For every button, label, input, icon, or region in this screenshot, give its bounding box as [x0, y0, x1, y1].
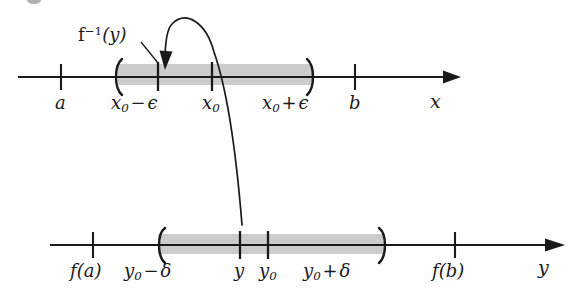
- bottom-axis-arrowhead: [545, 239, 565, 252]
- top-tick-label-x0-plus-eps: x0+ϵ: [262, 94, 309, 112]
- top-axis-arrowhead: [443, 71, 461, 84]
- top-axis-label-x: x: [430, 92, 441, 111]
- top-tick-label-x0-minus-eps: x0−ϵ: [111, 94, 158, 112]
- mapping-curve: [165, 18, 242, 225]
- top-tick-label-b: b: [349, 94, 361, 112]
- bottom-axis-label-y: y: [538, 258, 549, 277]
- top-axis-shaded-band: [118, 64, 312, 85]
- inverse-function-epsilon-delta-figure: f−1(y) a x0−ϵ x0 x0+ϵ b x f(a) y0−δ y y0…: [0, 0, 584, 307]
- callout-leader-line: [141, 42, 158, 63]
- top-tick-label-x0: x0: [202, 94, 220, 112]
- bottom-tick-label-f-of-a: f(a): [70, 262, 101, 280]
- top-tick-label-a: a: [55, 94, 66, 112]
- bottom-tick-label-f-of-b: f(b): [432, 262, 464, 280]
- bottom-tick-label-y0-minus-delta: y0−δ: [124, 262, 171, 280]
- callout-label-f-inverse-of-y: f−1(y): [78, 26, 126, 44]
- bottom-tick-label-y: y: [234, 262, 244, 280]
- bottom-tick-label-y0-plus-delta: y0+δ: [303, 262, 350, 280]
- bottom-tick-label-y0: y0: [259, 262, 277, 280]
- callout-label-text: f−1(y): [78, 24, 126, 45]
